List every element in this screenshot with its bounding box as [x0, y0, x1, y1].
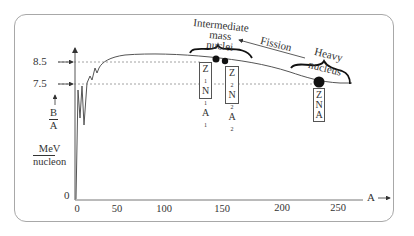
y-units-denominator: nucleon: [33, 156, 66, 167]
fragment1-a: A1: [201, 108, 210, 130]
x-tick-250: 250: [330, 203, 346, 214]
fragment2-n: N2: [227, 90, 237, 112]
fragment2-a: A2: [227, 112, 237, 134]
fragment1-dot: [213, 56, 220, 63]
heavy-nucleus-dot: [314, 77, 325, 88]
x-tick-0: 0: [74, 204, 79, 215]
heavy-a: A: [315, 110, 323, 120]
y-tick-8-5: 8.5: [33, 56, 47, 67]
fragment2-box: Z2 N2 A2: [225, 66, 239, 104]
fragment1-n: N1: [201, 86, 210, 108]
y-axis-symbol-label: B A: [49, 107, 58, 131]
y-axis-units-label: MeV nucleon: [33, 143, 66, 167]
fragment1-box: Z1 N1 A1: [199, 62, 212, 99]
y-tick-0: 0: [64, 190, 70, 201]
y-symbol-numerator: B: [49, 107, 58, 120]
y-units-numerator: MeV: [33, 143, 66, 155]
heavy-nucleus-box: Z N A: [313, 88, 325, 122]
fragment2-z: Z2: [227, 68, 237, 90]
x-tick-150: 150: [214, 204, 230, 215]
fragment2-dot: [222, 58, 228, 64]
x-tick-200: 200: [274, 203, 290, 214]
x-tick-50: 50: [112, 204, 123, 215]
x-axis-label: A: [367, 192, 375, 203]
y-symbol-denominator: A: [50, 120, 58, 131]
y-tick-7-5: 7.5: [33, 78, 47, 89]
fragment1-z: Z1: [201, 64, 210, 86]
x-tick-100: 100: [156, 204, 172, 215]
binding-energy-curve: [76, 54, 352, 199]
